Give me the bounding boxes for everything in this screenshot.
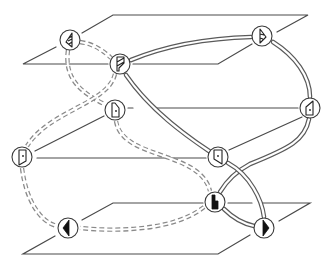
middle-plane xyxy=(35,108,302,158)
node-B[interactable] xyxy=(110,54,130,74)
diagram-canvas xyxy=(0,0,329,264)
node-D[interactable] xyxy=(105,100,125,120)
node-I[interactable] xyxy=(58,218,78,238)
node-A[interactable] xyxy=(60,30,80,50)
node-H[interactable] xyxy=(205,192,225,212)
node-C[interactable] xyxy=(252,26,272,46)
node-F[interactable] xyxy=(12,147,32,167)
node-E[interactable] xyxy=(300,98,320,118)
node-J[interactable] xyxy=(254,218,274,238)
node-G[interactable] xyxy=(208,147,228,167)
